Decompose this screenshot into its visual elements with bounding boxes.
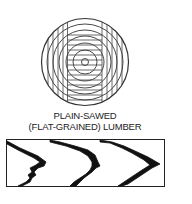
board-face bbox=[0, 0, 192, 204]
